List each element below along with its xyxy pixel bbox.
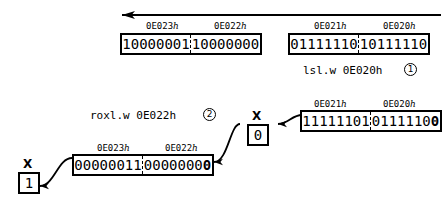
x-flag-label-middle: X xyxy=(252,110,261,122)
byte-bits: 0000000 xyxy=(144,156,203,174)
hex-suffix: h xyxy=(241,21,247,31)
address-hex-value: 0E020 xyxy=(383,99,410,109)
address-label-lo-3: 0E022h xyxy=(165,143,198,154)
byte-cell-lo: 01111100 xyxy=(371,112,440,130)
hex-suffix: h xyxy=(192,143,198,153)
hex-suffix: h xyxy=(173,21,179,31)
hex-suffix: h xyxy=(124,143,130,153)
address-hex-value: 0E022 xyxy=(165,143,192,153)
address-hex-value: 0E021 xyxy=(314,99,341,109)
address-hex-value: 0E022 xyxy=(214,21,241,31)
byte-cell-lo: 10111110 xyxy=(359,35,428,53)
address-label-hi-2: 0E021h xyxy=(314,99,347,110)
address-label-hi-1: 0E021h xyxy=(314,21,347,32)
byte-bits: 0111110 xyxy=(372,112,431,130)
memory-word-0E023-0E022-before: 10000001 10000000 xyxy=(120,33,262,55)
address-label-lo-2: 0E020h xyxy=(383,99,416,110)
memory-word-0E021-0E020-before: 01111110 10111110 xyxy=(288,33,430,55)
diagram-canvas: 0E023h 0E022h 10000001 10000000 0E021h 0… xyxy=(0,0,442,206)
shifted-in-bit: 0 xyxy=(203,156,211,174)
address-label-lo-1: 0E020h xyxy=(383,21,416,32)
address-label-hi-3: 0E023h xyxy=(97,143,130,154)
x-flag-label-left: X xyxy=(23,158,32,170)
byte-cell-hi: 01111110 xyxy=(290,35,359,53)
hex-suffix: h xyxy=(341,99,347,109)
hex-suffix: h xyxy=(341,21,347,31)
instruction-marker-2: 2 xyxy=(203,108,216,121)
x-flag-box-left: 1 xyxy=(18,172,40,194)
x-flag-box-middle: 0 xyxy=(247,124,269,146)
shifted-in-bit: 0 xyxy=(431,112,439,130)
address-hex-value: 0E021 xyxy=(314,21,341,31)
byte-cell-lo: 00000000 xyxy=(143,156,212,174)
instruction-lsl-text: lsl.w 0E020h xyxy=(303,64,382,77)
address-hex-value: 0E023 xyxy=(146,21,173,31)
address-hex-value: 0E020 xyxy=(383,21,410,31)
byte-cell-hi: 10000001 xyxy=(122,35,191,53)
address-label-lo-0: 0E022h xyxy=(214,21,247,32)
byte-cell-hi: 00000011 xyxy=(74,156,143,174)
byte-cell-hi: 11111101 xyxy=(302,112,371,130)
instruction-roxl-text: roxl.w 0E022h xyxy=(90,109,176,122)
instruction-marker-1: 1 xyxy=(404,63,417,76)
address-hex-value: 0E023 xyxy=(97,143,124,153)
hex-suffix: h xyxy=(410,21,416,31)
memory-word-0E021-0E020-after: 11111101 01111100 xyxy=(300,110,442,132)
byte-cell-lo: 10000000 xyxy=(191,35,260,53)
memory-word-0E023-0E022-after: 00000011 00000000 xyxy=(72,154,214,176)
hex-suffix: h xyxy=(410,99,416,109)
address-label-hi-0: 0E023h xyxy=(146,21,179,32)
